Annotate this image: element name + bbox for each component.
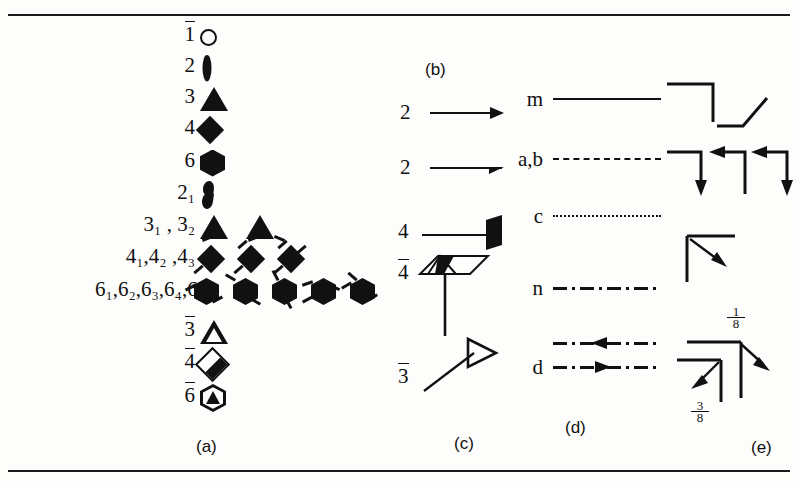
open-arrowhead-inclined-axis-icon: [420, 337, 515, 397]
table-row: d: [505, 356, 661, 378]
table-row: m: [505, 88, 661, 110]
d-glide-upper-line: [553, 336, 671, 350]
a-row-symbols: [200, 244, 302, 274]
a-row-symbols: [200, 212, 274, 242]
fraction-denominator: 8: [727, 317, 745, 329]
fraction-denominator: 8: [691, 411, 709, 423]
a-row-label: 2: [185, 53, 196, 77]
d-row-label: a,b: [505, 147, 543, 172]
table-row: 3: [60, 317, 390, 349]
panel-a-caption: (a): [196, 437, 217, 457]
c-row-label: 4: [398, 260, 409, 285]
a-row-label: 3: [185, 317, 196, 341]
filled-lens-icon: [200, 55, 214, 82]
table-row: 2: [400, 155, 502, 180]
table-row: 6: [60, 148, 390, 180]
lens-screw-icon: [200, 181, 216, 209]
corner-diagonal-arrow-inward-icon: [683, 230, 753, 290]
open-parallelogram-inverse-axis-icon: [418, 250, 513, 342]
open-circle-icon: [200, 29, 217, 46]
dash-dot-line-icon: [553, 287, 661, 290]
table-row: 1: [60, 22, 390, 54]
b-row-label: 2: [400, 100, 418, 125]
right-arrow-icon: [587, 360, 617, 374]
table-row: 2: [60, 53, 390, 85]
c-row-label: 4: [398, 219, 409, 244]
fraction-one-eighth: 1 8: [727, 306, 745, 329]
corner-arrow-down-icon: [665, 146, 713, 198]
a-row-label: 1: [185, 22, 196, 46]
c-row-label: 3: [398, 364, 409, 389]
dashed-line-icon: [553, 158, 661, 160]
a-row-symbols: [194, 277, 376, 307]
half-arrow-icon: [430, 167, 502, 169]
table-row: a,b: [505, 148, 661, 170]
a-row-symbols: [200, 53, 214, 83]
b-row-label: 2: [400, 155, 418, 180]
table-row: 6₁,6₂,6₃,6₄,6₅: [60, 277, 390, 309]
table-row: 2₁: [60, 180, 390, 212]
a-row-label: 4: [185, 115, 196, 139]
corner-arrow-left-icon: [709, 146, 757, 198]
a-row-label-text: 4: [185, 349, 196, 373]
a-row-label: 3₁ , 3₂: [144, 212, 195, 236]
a-row-symbols: [200, 115, 220, 145]
a-row-label-text: 6: [185, 383, 196, 407]
a-row-label: 2₁: [177, 180, 195, 204]
diamond-screw-3-icon: [280, 246, 302, 272]
table-row: 4: [60, 115, 390, 147]
panel-e-planes-inclined-to-page: 1 8 3 8 (e): [665, 78, 795, 423]
table-row: 4: [60, 349, 390, 381]
a-row-symbols: [200, 349, 225, 379]
panel-c-caption: (c): [454, 434, 474, 454]
d-glide-lower-line: [553, 360, 661, 374]
a-row-label: 3: [185, 84, 196, 108]
d-row-label: c: [505, 204, 543, 229]
hex-screw-4-icon: [311, 278, 337, 306]
diamond-screw-2-icon: [240, 246, 262, 272]
corner-arrow-out-down-right-icon: [669, 336, 779, 426]
a-row-label: 4₁,4₂ ,4₃: [126, 244, 195, 268]
bent-line-up-right-icon: [715, 96, 775, 144]
a-row-symbols: [200, 22, 217, 52]
filled-hexagon-icon: [200, 150, 225, 177]
table-row: c: [505, 205, 661, 227]
triangle-screw-2-icon: [246, 215, 274, 239]
filled-triangle-icon: [200, 87, 228, 111]
a-row-label-text: 1: [185, 22, 196, 46]
open-triangle-icon: [200, 320, 228, 344]
hex-screw-3-icon: [272, 278, 298, 306]
fraction-three-eighths: 3 8: [691, 400, 709, 423]
dotted-line-icon: [553, 215, 661, 217]
triangle-screw-1-icon: [200, 215, 228, 239]
diamond-screw-1-icon: [200, 246, 222, 272]
a-row-label-text: 3: [185, 317, 196, 341]
a-row-symbols: [200, 383, 226, 413]
panel-c-axes-inclined-to-page: 4 4 3 (c): [398, 212, 518, 412]
panel-d-planes-normal-to-page: m a,b c n d (d): [505, 88, 675, 408]
a-row-label: 6: [185, 148, 196, 172]
solid-line-icon: [553, 98, 661, 100]
a-row-label: 4: [185, 349, 196, 373]
table-row: 2: [400, 100, 502, 125]
a-row-symbols: [200, 148, 225, 178]
a-row-symbols: [200, 84, 228, 114]
filled-parallelogram-axis-icon: [420, 214, 515, 254]
a-row-label: 6: [185, 383, 196, 407]
table-row: 4₁,4₂ ,4₃: [60, 244, 390, 276]
panel-d-caption: (d): [565, 418, 586, 438]
d-row-label: m: [505, 87, 543, 112]
d-row-label: n: [505, 276, 543, 301]
hex-screw-1-icon: [194, 278, 220, 306]
panel-b-caption: (b): [425, 60, 446, 80]
hexagon-with-triangle-icon: [200, 384, 226, 412]
top-divider-rule: [8, 14, 790, 16]
full-arrow-icon: [430, 112, 502, 114]
table-row: 6: [60, 383, 390, 415]
hex-screw-5-icon: [350, 278, 376, 306]
table-row: 3₁ , 3₂: [60, 212, 390, 244]
c-row-label-text: 3: [398, 364, 409, 389]
panel-e-caption: (e): [751, 438, 772, 458]
table-row: n: [505, 277, 661, 299]
half-filled-diamond-icon: [195, 346, 230, 381]
